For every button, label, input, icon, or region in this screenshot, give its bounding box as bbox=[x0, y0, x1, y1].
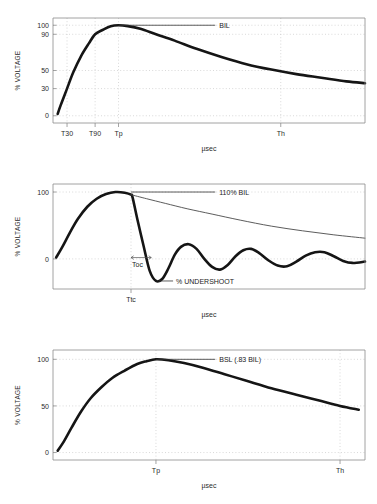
ytick-label: 0 bbox=[45, 112, 49, 119]
data-curve-primary bbox=[58, 359, 359, 450]
y-axis-title: % VOLTAGE bbox=[14, 50, 21, 90]
axes-switching-surge-bsl bbox=[53, 350, 365, 460]
ytick-label: 0 bbox=[45, 449, 49, 456]
xtick-label: Th bbox=[277, 130, 285, 137]
gridlines-full-wave-bil bbox=[53, 18, 365, 123]
curves-chopped-wave bbox=[56, 192, 365, 282]
ticks-switching-surge-bsl: 050100TpTh bbox=[37, 356, 344, 475]
x-axis-title: µsec bbox=[202, 482, 217, 490]
annotation-label: BIL bbox=[219, 22, 230, 29]
curves-switching-surge-bsl bbox=[58, 359, 359, 450]
xtick-label: Tp bbox=[152, 467, 160, 475]
chart-panel-chopped-wave: 0100Ttc 110% BIL% UNDERSHOOTToc µsec% VO… bbox=[0, 166, 377, 332]
ytick-label: 100 bbox=[37, 22, 49, 29]
data-curve-primary bbox=[56, 192, 365, 282]
chart-svg-full-wave-bil: 0305090100T30T90TpTh BIL µsec% VOLTAGE bbox=[0, 0, 377, 166]
xtick-label: Th bbox=[336, 467, 344, 474]
labels-chopped-wave: µsec% VOLTAGE bbox=[14, 216, 217, 319]
x-axis-title: µsec bbox=[202, 145, 217, 153]
xtick-label: T90 bbox=[89, 130, 101, 137]
y-axis-title: % VOLTAGE bbox=[14, 385, 21, 425]
ytick-label: 30 bbox=[41, 85, 49, 92]
data-curve-primary bbox=[58, 25, 365, 114]
ytick-label: 0 bbox=[45, 256, 49, 263]
chart-svg-switching-surge-bsl: 050100TpTh BSL (.83 BIL) µsec% VOLTAGE bbox=[0, 332, 377, 504]
annotation-label: % UNDERSHOOT bbox=[176, 278, 235, 285]
y-axis-title: % VOLTAGE bbox=[14, 216, 21, 256]
x-axis-title: µsec bbox=[202, 311, 217, 319]
ytick-label: 90 bbox=[41, 31, 49, 38]
ticks-full-wave-bil: 0305090100T30T90TpTh bbox=[37, 22, 285, 138]
axes-full-wave-bil bbox=[53, 18, 365, 123]
annotation-label: BSL (.83 BIL) bbox=[219, 356, 261, 364]
chart-svg-chopped-wave: 0100Ttc 110% BIL% UNDERSHOOTToc µsec% VO… bbox=[0, 166, 377, 332]
chart-panel-full-wave-bil: 0305090100T30T90TpTh BIL µsec% VOLTAGE bbox=[0, 0, 377, 166]
annotation-label: 110% BIL bbox=[219, 189, 249, 196]
ytick-label: 50 bbox=[41, 403, 49, 410]
labels-full-wave-bil: µsec% VOLTAGE bbox=[14, 50, 217, 153]
annotation-label: Toc bbox=[132, 261, 143, 268]
ytick-label: 100 bbox=[37, 356, 49, 363]
ytick-label: 100 bbox=[37, 189, 49, 196]
gridlines-chopped-wave bbox=[53, 184, 365, 289]
gridlines-switching-surge-bsl bbox=[53, 350, 365, 460]
xtick-label: Tp bbox=[114, 130, 122, 138]
xtick-label: Ttc bbox=[126, 296, 136, 303]
chart-panel-switching-surge-bsl: 050100TpTh BSL (.83 BIL) µsec% VOLTAGE bbox=[0, 332, 377, 504]
axes-chopped-wave bbox=[53, 184, 365, 289]
impulse-waveform-figure: 0305090100T30T90TpTh BIL µsec% VOLTAGE 0… bbox=[0, 0, 377, 504]
labels-switching-surge-bsl: µsec% VOLTAGE bbox=[14, 385, 217, 490]
curves-full-wave-bil bbox=[58, 25, 365, 114]
data-curve-reference bbox=[131, 195, 365, 238]
xtick-label: T30 bbox=[61, 130, 73, 137]
ytick-label: 50 bbox=[41, 67, 49, 74]
